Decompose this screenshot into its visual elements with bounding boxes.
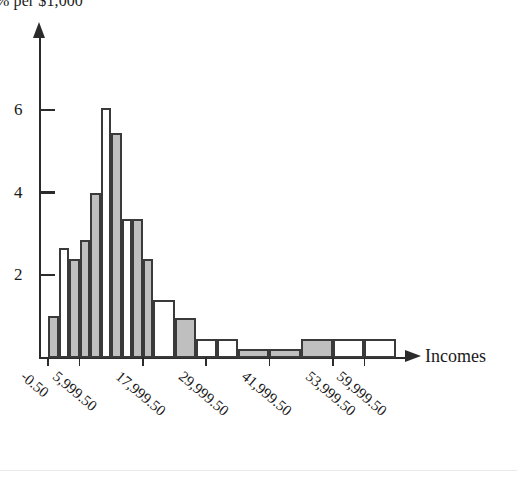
histogram-bar [111,133,122,358]
y-axis-line [39,36,41,358]
y-axis-arrow-icon [33,22,45,38]
x-tick-label-0: -0.50 [17,368,52,401]
x-tick-5 [332,357,334,366]
x-tick-3 [205,357,207,366]
x-tick-label-4: 41,999.50 [239,368,296,420]
x-axis-arrow-icon [405,350,421,362]
y-tick-label-2: 2 [14,265,23,285]
histogram-bar [196,339,217,358]
x-tick-4 [269,357,271,366]
histogram-bar [90,193,101,358]
y-tick-4 [40,191,55,193]
x-tick-label-2: 17,999.50 [112,368,169,420]
histogram-bar [101,108,112,358]
histogram-bar [59,248,70,357]
x-tick-0 [47,357,49,366]
histogram-bar [143,259,154,358]
histogram-bar [364,339,396,358]
x-axis-title: Incomes [425,346,486,367]
histogram-bar [238,349,270,357]
y-tick-label-6: 6 [14,100,23,120]
histogram-bar [175,318,196,357]
x-tick-label-1: 5,999.50 [49,368,100,415]
histogram-bar [301,339,333,358]
y-tick-2 [40,274,55,276]
x-tick-label-3: 29,999.50 [175,368,232,420]
x-tick-1 [79,357,81,366]
plot-area: 246 -0.505,999.5017,999.5029,999.5041,99… [0,0,517,477]
histogram-bar [217,339,238,358]
x-tick-6 [364,357,366,366]
y-tick-label-4: 4 [14,183,23,203]
histogram-figure: % per $1,000 246 -0.505,999.5017,999.502… [0,0,517,477]
histogram-bar [153,300,174,358]
histogram-bar [69,259,80,358]
histogram-bar [122,219,133,357]
histogram-bar [48,316,59,357]
histogram-bar [269,349,301,357]
x-tick-2 [142,357,144,366]
y-tick-6 [40,109,55,111]
histogram-bar [80,240,91,358]
histogram-bar [132,219,143,357]
histogram-bar [333,339,365,358]
footer-divider [0,470,517,471]
